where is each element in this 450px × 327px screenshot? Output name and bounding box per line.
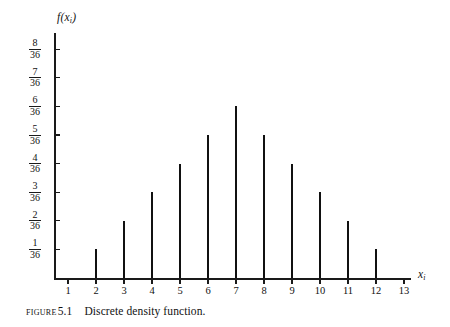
fraction-numerator: 8 <box>29 38 41 49</box>
x-axis-tick-mark <box>263 278 264 284</box>
x-axis-tick-mark <box>375 278 376 284</box>
fraction-numerator: 4 <box>29 153 41 164</box>
x-axis-tick-label: 7 <box>224 286 248 297</box>
x-axis-title-subscript: i <box>423 273 425 282</box>
y-axis-tick-mark <box>54 249 60 250</box>
x-axis-tick-label: 4 <box>140 286 164 297</box>
fraction-numerator: 2 <box>29 210 41 221</box>
y-axis-title: f(xi) <box>57 11 76 25</box>
fraction-denominator: 36 <box>29 163 41 175</box>
x-axis-tick-label: 8 <box>252 286 276 297</box>
figure-caption: Figure5.1Discrete density function. <box>26 305 205 317</box>
y-axis-tick-label: 236 <box>22 210 48 232</box>
y-axis-tick-label: 336 <box>22 181 48 203</box>
fraction-denominator: 36 <box>29 77 41 89</box>
x-axis-tick-mark <box>403 278 404 284</box>
x-axis-line <box>54 278 411 280</box>
x-axis-tick-mark <box>319 278 320 284</box>
x-axis-tick-mark <box>207 278 208 284</box>
figure-container: f(xi) xi 136236336436536636736836 123456… <box>0 0 450 327</box>
y-axis-tick-label: 636 <box>22 95 48 117</box>
caption-label: Figure <box>26 305 57 317</box>
y-axis-tick-mark <box>54 134 60 135</box>
x-axis-tick-label: 10 <box>308 286 332 297</box>
data-spike <box>319 192 321 278</box>
fraction-numerator: 7 <box>29 67 41 78</box>
y-axis-tick-mark <box>54 220 60 221</box>
fraction-denominator: 36 <box>29 249 41 261</box>
data-spike <box>291 164 293 278</box>
x-axis-tick-label: 12 <box>364 286 388 297</box>
x-axis-tick-label: 13 <box>392 286 416 297</box>
fraction-numerator: 5 <box>29 124 41 135</box>
fraction: 136 <box>29 238 41 260</box>
fraction-denominator: 36 <box>29 220 41 232</box>
y-axis-tick-mark <box>54 106 60 107</box>
x-axis-tick-label: 11 <box>336 286 360 297</box>
data-spike <box>235 106 237 278</box>
x-axis-tick-label: 3 <box>112 286 136 297</box>
x-axis-tick-label: 2 <box>84 286 108 297</box>
fraction: 336 <box>29 181 41 203</box>
y-axis-tick-mark <box>54 49 60 50</box>
fraction-numerator: 6 <box>29 95 41 106</box>
y-axis-tick-label: 836 <box>22 38 48 60</box>
x-axis-tick-mark <box>179 278 180 284</box>
data-spike <box>95 249 97 278</box>
fraction: 436 <box>29 153 41 175</box>
fraction: 636 <box>29 95 41 117</box>
x-axis-tick-mark <box>291 278 292 284</box>
y-axis-tick-label: 436 <box>22 153 48 175</box>
caption-text: Discrete density function. <box>84 305 205 317</box>
fraction: 736 <box>29 67 41 89</box>
data-spike <box>151 192 153 278</box>
fraction: 836 <box>29 38 41 60</box>
y-axis-tick-label: 536 <box>22 124 48 146</box>
y-axis-tick-label: 136 <box>22 238 48 260</box>
data-spike <box>263 135 265 278</box>
y-axis-title-text: f(x <box>57 11 70 23</box>
data-spike <box>123 221 125 278</box>
data-spike <box>375 249 377 278</box>
data-spike <box>207 135 209 278</box>
fraction-denominator: 36 <box>29 135 41 147</box>
y-axis-title-paren: ) <box>72 11 76 23</box>
x-axis-tick-label: 5 <box>168 286 192 297</box>
x-axis-tick-label: 6 <box>196 286 220 297</box>
fraction-denominator: 36 <box>29 106 41 118</box>
plot-area: f(xi) xi 136236336436536636736836 123456… <box>0 0 450 300</box>
fraction: 236 <box>29 210 41 232</box>
fraction-denominator: 36 <box>29 192 41 204</box>
x-axis-tick-mark <box>123 278 124 284</box>
y-axis-tick-label: 736 <box>22 67 48 89</box>
y-axis-tick-mark <box>54 192 60 193</box>
caption-number: 5.1 <box>58 305 73 317</box>
data-spike <box>347 221 349 278</box>
fraction: 536 <box>29 124 41 146</box>
x-axis-tick-mark <box>151 278 152 284</box>
x-axis-tick-mark <box>67 278 68 284</box>
y-axis-tick-mark <box>54 77 60 78</box>
y-axis-line <box>54 33 56 279</box>
fraction-denominator: 36 <box>29 49 41 61</box>
x-axis-tick-mark <box>95 278 96 284</box>
x-axis-tick-mark <box>347 278 348 284</box>
x-axis-tick-mark <box>235 278 236 284</box>
fraction-numerator: 1 <box>29 238 41 249</box>
y-axis-tick-mark <box>54 163 60 164</box>
x-axis-title: xi <box>418 268 426 282</box>
fraction-numerator: 3 <box>29 181 41 192</box>
x-axis-tick-label: 1 <box>56 286 80 297</box>
x-axis-tick-label: 9 <box>280 286 304 297</box>
data-spike <box>179 164 181 278</box>
